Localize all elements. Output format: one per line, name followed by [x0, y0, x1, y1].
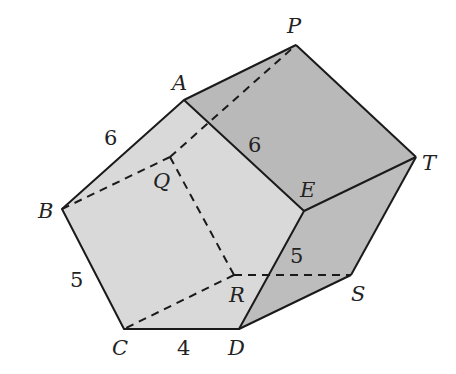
vertex-label-t: T [422, 151, 438, 175]
edge-length-es: 5 [290, 244, 303, 268]
vertex-label-b: B [37, 199, 53, 223]
vertex-label-d: D [227, 336, 245, 360]
vertex-label-a: A [170, 71, 187, 95]
vertex-label-c: C [112, 336, 128, 360]
edge-length-ab: 6 [104, 126, 117, 150]
vertex-label-r: R [228, 283, 245, 307]
vertex-label-p: P [286, 14, 302, 38]
edge-length-cd: 4 [177, 336, 190, 360]
vertex-label-e: E [299, 178, 315, 202]
edge-length-bc: 5 [70, 268, 83, 292]
vertex-label-s: S [351, 282, 365, 306]
vertex-label-q: Q [153, 169, 170, 193]
prism-diagram: P A T E Q B R S C D 6 6 5 4 5 [0, 0, 456, 374]
edge-length-ae: 6 [248, 133, 261, 157]
